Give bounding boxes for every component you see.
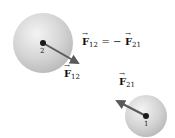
equation-rhs-symbol: F <box>125 37 132 47</box>
equation-lhs-symbol: F <box>82 37 89 47</box>
equation-lhs-sub: 12 <box>89 41 98 49</box>
force-f21-label: F21 <box>119 77 135 89</box>
force-f21-symbol: F <box>119 77 126 87</box>
force-diagram <box>0 0 175 138</box>
equation-rhs-sub: 21 <box>132 41 141 49</box>
force-f12-label: F12 <box>64 69 80 81</box>
equation-operator: = − <box>102 36 122 47</box>
equation-label: F12 = − F21 <box>82 37 141 49</box>
force-f12-symbol: F <box>64 69 71 79</box>
force-f12-sub: 12 <box>71 73 80 81</box>
particle-2-label: 2 <box>40 47 44 55</box>
particle-2-center-dot <box>40 40 46 46</box>
particle-1-center-dot <box>143 113 149 119</box>
force-f21-sub: 21 <box>126 81 135 89</box>
particle-1-label: 1 <box>144 120 148 128</box>
